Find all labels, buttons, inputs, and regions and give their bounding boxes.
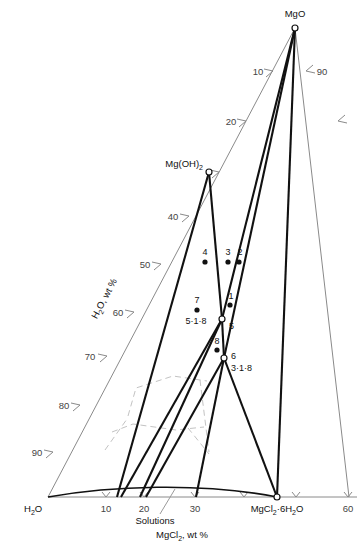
label-point-5: 5 bbox=[229, 321, 234, 331]
apex-label-mgo: MgO bbox=[285, 8, 306, 19]
tieline-pt5-to-pt6 bbox=[222, 319, 224, 358]
tick-marks-group bbox=[44, 65, 352, 497]
tieline-pt5-to-bottom-17b bbox=[121, 319, 222, 497]
tick-label-y-10: 10 bbox=[253, 66, 264, 77]
tick-label-y-20: 20 bbox=[226, 116, 237, 127]
data-point-8 bbox=[214, 347, 219, 352]
tick-label-x-10: 10 bbox=[101, 503, 112, 514]
tick-labels-bottom: 10 20 30 60 bbox=[101, 503, 354, 514]
ternary-phase-diagram: 4 3 2 7 1 5 8 6 5·1·8 3·1·8 MgO Mg(OH)2 … bbox=[0, 0, 363, 546]
vertex-marker-mgcl2-6h2o bbox=[274, 494, 280, 500]
data-point-7 bbox=[194, 307, 199, 312]
data-point-1 bbox=[227, 302, 232, 307]
tick-label-x-60: 60 bbox=[343, 503, 354, 514]
vertex-marker-mgoh2 bbox=[206, 169, 212, 175]
solutions-leader-line bbox=[160, 489, 175, 514]
tieline-pt6-to-bottom-23b bbox=[146, 358, 224, 497]
x-axis-title: MgCl2, wt % bbox=[156, 529, 208, 542]
vertex-label-mgoh2: Mg(OH)2 bbox=[165, 158, 203, 171]
label-point-1: 1 bbox=[228, 291, 233, 301]
tieline-pt6-to-mgcl2-6h2o bbox=[224, 358, 277, 497]
label-point-6: 6 bbox=[231, 351, 236, 361]
tick-label-x-20: 20 bbox=[139, 503, 150, 514]
solutions-annotation: Solutions bbox=[135, 515, 174, 526]
label-formula-518: 5·1·8 bbox=[185, 316, 206, 326]
construction-lines-group bbox=[105, 376, 209, 454]
data-point-6 bbox=[221, 355, 227, 361]
tieline-pt5-to-bottom-23 bbox=[140, 319, 222, 497]
data-point-4 bbox=[202, 259, 207, 264]
tick-label-y-60: 60 bbox=[113, 307, 124, 318]
construction-line-3 bbox=[105, 419, 127, 450]
vertex-marker-mgo bbox=[292, 25, 298, 31]
label-formula-318: 3·1·8 bbox=[231, 363, 252, 373]
tick-label-x-30: 30 bbox=[190, 503, 201, 514]
right-axis bbox=[295, 28, 349, 497]
tick-label-y-40: 40 bbox=[168, 211, 179, 222]
tick-label-right-90: 90 bbox=[317, 66, 328, 77]
data-point-2 bbox=[236, 259, 241, 264]
data-point-3 bbox=[225, 259, 230, 264]
tick-label-y-80: 80 bbox=[59, 400, 70, 411]
label-point-4: 4 bbox=[202, 247, 207, 257]
tick-label-y-70: 70 bbox=[85, 351, 96, 362]
label-point-3: 3 bbox=[225, 247, 230, 257]
tieline-mgoh2-to-pt5 bbox=[209, 172, 222, 319]
label-point-2: 2 bbox=[237, 247, 242, 257]
vertex-label-mgcl2-6h2o: MgCl2·6H2O bbox=[251, 503, 304, 516]
data-point-5 bbox=[219, 316, 225, 322]
tick-label-y-90: 90 bbox=[32, 447, 43, 458]
tick-label-y-50: 50 bbox=[140, 259, 151, 270]
label-point-8: 8 bbox=[214, 336, 219, 346]
label-point-7: 7 bbox=[194, 295, 199, 305]
origin-label-h2o: H2O bbox=[24, 503, 42, 516]
